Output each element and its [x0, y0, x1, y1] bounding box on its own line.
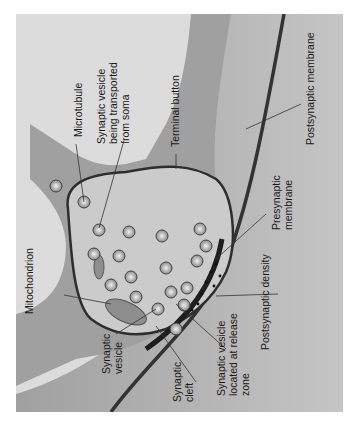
label-vesicle-release-zone: Synaptic vesicle located at release zone	[215, 313, 251, 396]
label-mitochondrion: Mitochondrion	[23, 248, 35, 314]
label-postsynaptic-density: Postsynaptic density	[259, 254, 271, 350]
label-synaptic-vesicle: Synaptic vesicle	[100, 334, 124, 374]
synapse-diagram: Microtubule Synaptic vesicle being trans…	[16, 14, 343, 412]
label-presynaptic-membrane: Presynaptic membrane	[270, 175, 294, 230]
label-vesicle-transported: Synaptic vesicle being transported from …	[95, 62, 131, 144]
label-microtubule: Microtubule	[72, 83, 84, 137]
label-terminal-button: Terminal button	[169, 75, 181, 147]
label-postsynaptic-membrane: Postsynaptic membrane	[304, 32, 316, 145]
label-synaptic-cleft: Synaptic cleft	[171, 362, 195, 402]
